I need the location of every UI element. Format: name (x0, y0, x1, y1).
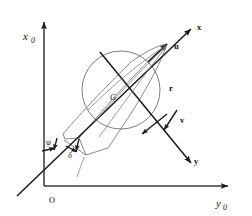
yaw-rate-r-label: r (169, 83, 173, 93)
body-axis-y-line (100, 52, 191, 163)
surge-velocity-u-label: u (174, 41, 179, 51)
hull-heading-reference-line (77, 157, 84, 177)
yaw-radius-line-3 (99, 45, 167, 137)
body-axis-x-label: x (197, 22, 202, 32)
sway-velocity-v-label: v (180, 115, 185, 125)
earth-fixed-axes (44, 22, 228, 186)
axis-label-y0-subscript: 0 (223, 203, 227, 212)
diagram-canvas: x 0 y 0 O x y u v r G ψ δ (0, 0, 252, 216)
heading-angle-label: ψ (46, 138, 52, 147)
axis-label-y0: y (215, 197, 221, 209)
sway-velocity-v-arrow-left (142, 114, 167, 134)
sway-velocity-v-arrow-right (164, 110, 177, 130)
drift-angle-label: δ (68, 151, 72, 160)
body-fixed-axes (17, 29, 191, 196)
origin-label: O (49, 195, 55, 205)
ship-kinematics-figure: x 0 y 0 O x y u v r G ψ δ (0, 0, 252, 216)
body-axis-y-label: y (194, 156, 199, 166)
body-axis-x-line (17, 29, 191, 196)
hull-starboard-side (79, 44, 167, 155)
center-of-gravity-label: G (110, 92, 116, 102)
figure-labels: x 0 y 0 O x y u v r G ψ δ (22, 22, 227, 212)
heading-angle-psi-arrow-down (54, 138, 57, 150)
ship-hull-outline (63, 44, 167, 177)
axis-label-x0-subscript: 0 (31, 36, 35, 45)
axis-label-x0: x (22, 30, 28, 42)
